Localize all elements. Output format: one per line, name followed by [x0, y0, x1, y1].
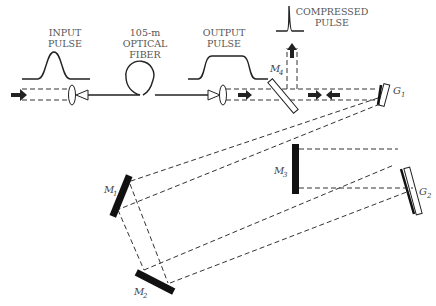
- m2-label: M 2: [133, 286, 148, 300]
- svg-text:4: 4: [278, 69, 283, 77]
- output-coupler: [208, 90, 220, 100]
- output-lens: [220, 85, 227, 105]
- input-coupler: [76, 90, 88, 100]
- input-lens: [69, 85, 76, 105]
- m4-label: M 4: [269, 63, 283, 77]
- svg-text:OPTICAL: OPTICAL: [123, 38, 168, 49]
- svg-text:1: 1: [401, 91, 405, 99]
- fiber-label: 105-m OPTICAL FIBER: [123, 27, 168, 60]
- svg-text:PULSE: PULSE: [315, 17, 349, 28]
- g2-label: G 2: [419, 186, 432, 200]
- svg-text:G: G: [393, 85, 401, 96]
- output-pulse-label: OUTPUT PULSE: [203, 27, 246, 49]
- input-arrow-icon: [11, 89, 27, 101]
- forward-arrow-icon-2: [308, 90, 322, 100]
- mirror-m4: [268, 79, 298, 113]
- m3-label: M 3: [273, 165, 288, 179]
- output-pulse-shape: [188, 56, 268, 79]
- input-pulse-shape: [22, 52, 90, 79]
- svg-text:FIBER: FIBER: [129, 49, 161, 60]
- svg-text:PULSE: PULSE: [48, 38, 82, 49]
- svg-text:2: 2: [426, 192, 432, 200]
- svg-text:105-m: 105-m: [130, 27, 160, 38]
- mirror-m3: [292, 144, 299, 194]
- svg-text:3: 3: [283, 171, 288, 179]
- pulse-compressor-diagram: INPUT PULSE 105-m OPTICAL FIBER OUTPUT P…: [0, 0, 436, 306]
- svg-text:PULSE: PULSE: [207, 38, 241, 49]
- up-arrow-icon: [287, 43, 297, 58]
- input-pulse-label: INPUT PULSE: [48, 27, 82, 49]
- forward-arrow-icon: [238, 90, 252, 100]
- return-arrow-icon: [326, 90, 340, 100]
- svg-text:INPUT: INPUT: [49, 27, 82, 38]
- svg-text:G: G: [419, 186, 427, 197]
- m1-label: M 1: [103, 184, 117, 198]
- svg-text:OUTPUT: OUTPUT: [203, 27, 246, 38]
- g1-label: G 1: [393, 85, 405, 99]
- compressed-pulse-label: COMPRESSED PULSE: [296, 6, 369, 28]
- optical-fiber: [88, 61, 154, 95]
- svg-text:1: 1: [113, 190, 117, 198]
- svg-text:2: 2: [142, 292, 148, 300]
- svg-text:COMPRESSED: COMPRESSED: [296, 6, 369, 17]
